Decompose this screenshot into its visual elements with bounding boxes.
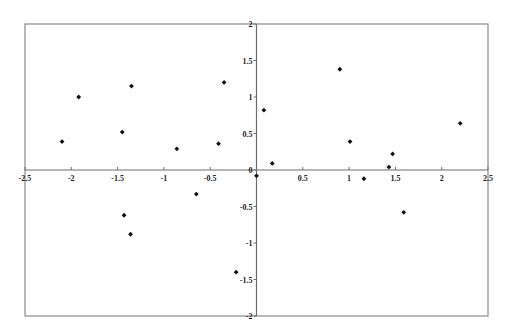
data-point-diamond-icon <box>222 80 227 85</box>
x-tick-label: -2 <box>68 174 75 183</box>
x-tick-label: -0.5 <box>204 174 217 183</box>
y-tick-label: -1.5 <box>240 276 253 285</box>
scatter-chart: -2.5-2-1.5-1-0.50.511.522.5 21.510.50-0.… <box>0 0 513 333</box>
x-tick-label: -1.5 <box>111 174 124 183</box>
x-tick-label: 0.5 <box>298 174 308 183</box>
y-tick-label: 0 <box>249 166 253 175</box>
y-tick-label: -0.5 <box>240 203 253 212</box>
data-point-diamond-icon <box>458 121 463 126</box>
x-tick-label: 2 <box>440 174 444 183</box>
data-point-diamond-icon <box>60 139 65 144</box>
data-points <box>60 67 463 275</box>
x-tick-label: 1 <box>347 174 351 183</box>
y-tick-label: 2 <box>249 20 253 29</box>
data-point-diamond-icon <box>122 213 127 218</box>
y-tick-label: 0.5 <box>243 130 253 139</box>
data-point-diamond-icon <box>129 84 134 89</box>
data-point-diamond-icon <box>387 165 392 170</box>
y-tick-label: 1.5 <box>243 57 253 66</box>
data-point-diamond-icon <box>362 176 367 181</box>
y-tick-label: -1 <box>246 239 253 248</box>
data-point-diamond-icon <box>216 141 221 146</box>
x-tick-label: 2.5 <box>483 174 493 183</box>
data-point-diamond-icon <box>254 173 259 178</box>
data-point-diamond-icon <box>401 210 406 215</box>
data-point-diamond-icon <box>262 108 267 113</box>
data-point-diamond-icon <box>337 67 342 72</box>
data-point-diamond-icon <box>270 161 275 166</box>
x-tick-label: -1 <box>161 174 168 183</box>
data-point-diamond-icon <box>194 192 199 197</box>
data-point-diamond-icon <box>76 95 81 100</box>
data-point-diamond-icon <box>120 130 125 135</box>
y-tick-label: -2 <box>246 312 253 321</box>
data-point-diamond-icon <box>234 270 239 275</box>
y-tick-label: 1 <box>249 93 253 102</box>
x-tick-label: 1.5 <box>390 174 400 183</box>
data-point-diamond-icon <box>390 152 395 157</box>
data-point-diamond-icon <box>348 139 353 144</box>
data-point-diamond-icon <box>174 146 179 151</box>
data-point-diamond-icon <box>128 232 133 237</box>
x-tick-label: -2.5 <box>19 174 32 183</box>
